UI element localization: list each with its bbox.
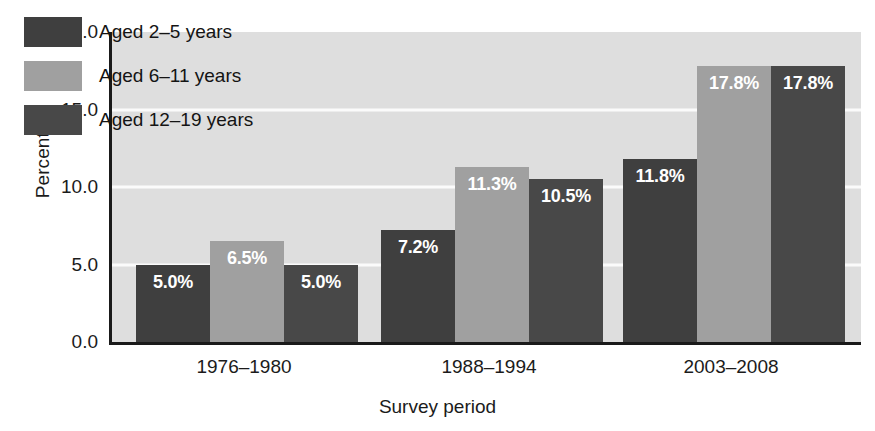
- bar-value-label: 5.0%: [284, 272, 358, 293]
- legend-item-label: Aged 6–11 years: [99, 65, 241, 87]
- bar: 5.0%: [136, 265, 210, 343]
- bar: 17.8%: [697, 66, 771, 342]
- legend-swatch-icon: [24, 61, 82, 91]
- bar-value-label: 17.8%: [771, 73, 845, 94]
- bar-value-label: 10.5%: [529, 186, 603, 207]
- bar: 17.8%: [771, 66, 845, 342]
- bar: 11.8%: [623, 159, 697, 342]
- legend-item: Aged 6–11 years: [24, 54, 253, 98]
- legend: Aged 2–5 yearsAged 6–11 yearsAged 12–19 …: [24, 10, 253, 142]
- x-axis-tick-label: 2003–2008: [683, 356, 778, 378]
- bar: 6.5%: [210, 241, 284, 342]
- legend-item-label: Aged 12–19 years: [99, 109, 253, 131]
- bar: 10.5%: [529, 179, 603, 342]
- bar: 11.3%: [455, 167, 529, 342]
- legend-swatch-icon: [24, 105, 82, 135]
- legend-item-label: Aged 2–5 years: [99, 21, 232, 43]
- bar-value-label: 17.8%: [697, 73, 771, 94]
- x-axis-tick-label: 1988–1994: [441, 356, 536, 378]
- bar-value-label: 6.5%: [210, 248, 284, 269]
- y-axis-tick-label: 5.0: [34, 254, 98, 276]
- bar-value-label: 7.2%: [381, 237, 455, 258]
- y-axis-tick-label: 0.0: [34, 331, 98, 353]
- legend-swatch-icon: [24, 17, 82, 47]
- x-axis-tick-label: 1976–1980: [196, 356, 291, 378]
- bar-value-label: 11.3%: [455, 174, 529, 195]
- y-axis-tick-label: 10.0: [34, 176, 98, 198]
- legend-item: Aged 2–5 years: [24, 10, 253, 54]
- x-axis-title: Survey period: [0, 396, 875, 418]
- bar: 7.2%: [381, 230, 455, 342]
- bar-value-label: 11.8%: [623, 166, 697, 187]
- bar-chart-figure: Percent % 0.05.010.015.020.0 5.0%6.5%5.0…: [0, 0, 875, 431]
- legend-item: Aged 12–19 years: [24, 98, 253, 142]
- bar-value-label: 5.0%: [136, 272, 210, 293]
- bar: 5.0%: [284, 265, 358, 343]
